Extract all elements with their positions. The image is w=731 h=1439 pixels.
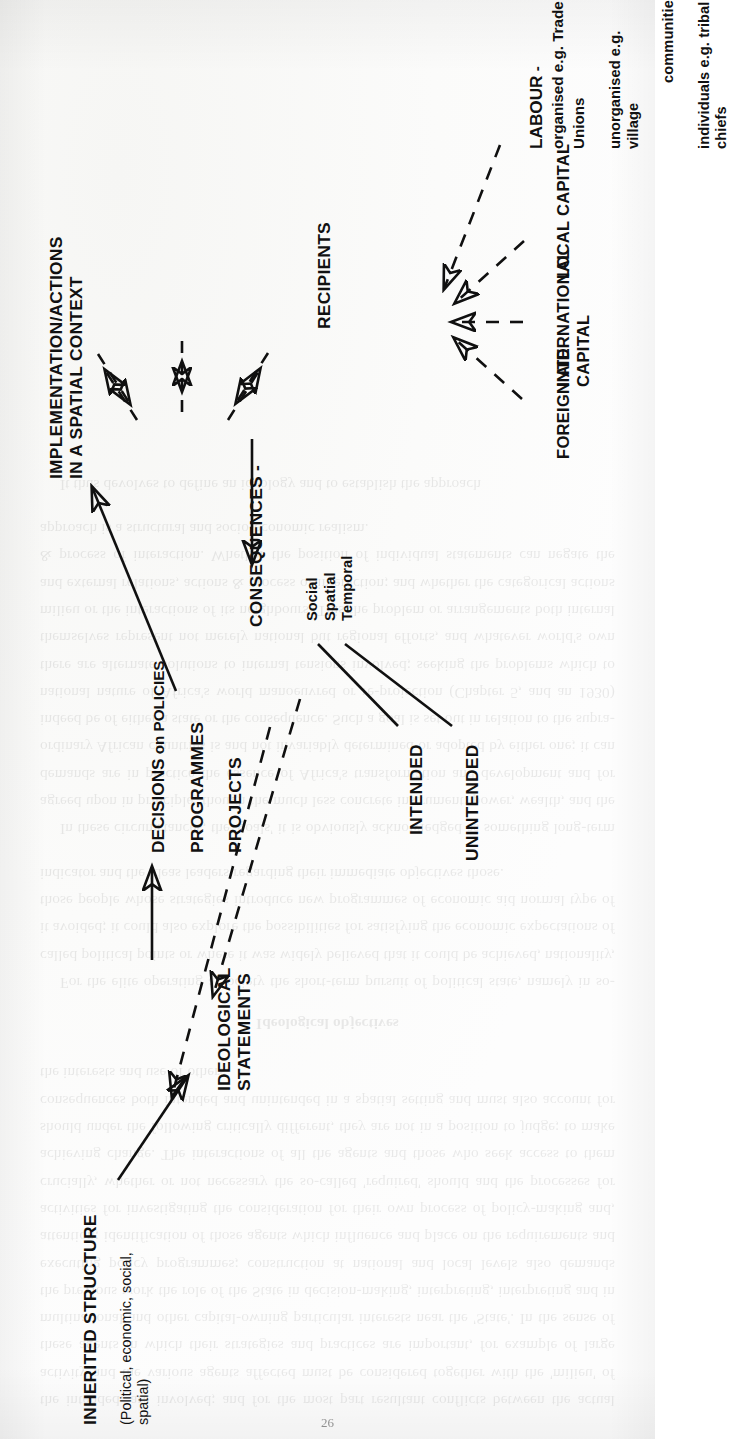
node-labour[interactable]: LABOUR - organised e.g. Trade Unions uno… [508, 0, 731, 149]
node-intended-heading: INTENDED [406, 744, 426, 835]
node-implementation[interactable]: IMPLEMENTATION/ACTIONS IN A SPATIAL CONT… [28, 236, 104, 479]
node-implementation-heading: IMPLEMENTATION/ACTIONS IN A SPATIAL CONT… [46, 236, 86, 479]
node-intended[interactable]: INTENDED [388, 744, 444, 835]
node-consequences-subtitle: Social Spatial Temporal [304, 556, 357, 621]
node-ideological-statements-heading: IDEOLOGICAL STATEMENTS [214, 967, 254, 1091]
edge-recipients-implementation-lower-out [236, 353, 268, 403]
edge-labour-to-decisions [444, 145, 500, 289]
edge-local-capital-to-decisions [455, 241, 524, 303]
node-recipients-heading: RECIPIENTS [314, 222, 334, 329]
page-folio: 26 [0, 1415, 655, 1431]
edge-inherited-to-ideological [118, 1076, 188, 1180]
node-labour-line-unorganised: unorganised e.g. village [607, 0, 642, 149]
node-consequences-heading: CONSEQUENCES - [246, 465, 266, 627]
node-consequences-dimensions: Social Spatial Temporal [286, 556, 375, 621]
edge-recipients-implementation-lower-in [228, 369, 260, 420]
node-ideological-statements[interactable]: IDEOLOGICAL STATEMENTS [196, 967, 272, 1091]
node-local-capital[interactable]: LOCAL CAPITAL [536, 144, 592, 279]
node-decisions-heading-tail: on POLICIES [150, 661, 167, 759]
node-decisions-heading: DECISIONS on POLICIES [148, 661, 169, 853]
node-inherited-structure[interactable]: INHERITED STRUCTURE (Political, economic… [62, 1214, 171, 1425]
edge-consequences-to-intended [318, 644, 398, 726]
node-decisions-heading-main: DECISIONS [148, 758, 168, 853]
node-unintended[interactable]: UNINTENDED [444, 744, 500, 861]
node-recipients[interactable]: RECIPIENTS [296, 222, 352, 329]
node-inherited-structure-heading: INHERITED STRUCTURE [80, 1214, 100, 1425]
node-decisions-line-projects: PROJECTS [225, 661, 245, 853]
node-decisions[interactable]: DECISIONS on POLICIES PROGRAMMES PROJECT… [130, 661, 263, 853]
edge-recipients-implementation-upper-in [105, 370, 137, 420]
edge-consequences-to-unintended [345, 644, 452, 726]
node-labour-line-individuals: individuals e.g. tribal chiefs [696, 0, 731, 149]
edge-foreign-aid-to-decisions [454, 338, 522, 399]
node-decisions-line-programmes: PROGRAMMES [187, 661, 207, 853]
node-local-capital-heading: LOCAL CAPITAL [554, 144, 574, 279]
node-labour-heading: LABOUR - organised e.g. Trade Unions [526, 0, 589, 149]
node-unintended-heading: UNINTENDED [462, 744, 482, 861]
node-labour-line-communities: communities [660, 0, 678, 149]
node-labour-heading-main: LABOUR [526, 75, 546, 149]
node-consequences[interactable]: CONSEQUENCES - [228, 465, 284, 627]
node-inherited-structure-subtitle: (Political, economic, social, spatial) [118, 1214, 153, 1425]
